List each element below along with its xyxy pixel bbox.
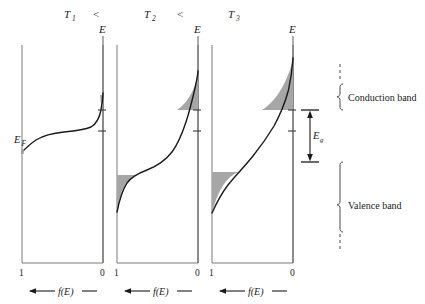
band-gap-label: E xyxy=(312,130,320,141)
conduction-band-annotation: Conduction band xyxy=(337,64,417,110)
panel-t3-valence-fill xyxy=(212,172,239,213)
panel-t1: E E F 1 0 f(E) xyxy=(13,23,106,298)
panel-t2-tick-one: 1 xyxy=(114,268,119,278)
panel-t3-box xyxy=(212,45,293,263)
band-gap-subscript: g xyxy=(320,136,324,144)
panel-t1-fe-axis: f(E) xyxy=(29,286,97,298)
panel-t2-box xyxy=(117,45,198,263)
valence-band-annotation: Valence band xyxy=(337,162,402,250)
panel-t3-conduction-fill xyxy=(262,58,293,110)
temperature-3-subscript: 3 xyxy=(235,14,240,23)
panel-t3-fd-curve xyxy=(212,58,293,213)
band-gap-arrowhead-down xyxy=(307,154,313,162)
panel-t1-energy-label: E xyxy=(98,23,106,35)
temperature-2-subscript: 2 xyxy=(152,14,156,23)
panel-t2-energy-label: E xyxy=(193,23,201,35)
temperature-1-label: T xyxy=(64,8,71,20)
panel-t3-fe-arrowhead xyxy=(219,288,226,293)
panel-t1-fe-arrowhead xyxy=(29,288,36,293)
fermi-dirac-figure: T 1 < T 2 < T 3 E E F xyxy=(0,0,425,304)
comparator-1: < xyxy=(93,8,99,20)
panel-t1-box xyxy=(22,45,103,263)
panel-t3-energy-label: E xyxy=(288,23,296,35)
valence-band-label: Valence band xyxy=(348,200,402,211)
temperature-1-subscript: 1 xyxy=(72,14,76,23)
temperature-header: T 1 < T 2 < T 3 xyxy=(64,8,240,23)
panel-t2-fd-curve xyxy=(117,71,198,212)
panel-t2: E 1 0 f(E) xyxy=(114,23,201,298)
temperature-3-label: T xyxy=(228,8,235,20)
temperature-2-label: T xyxy=(144,8,151,20)
panel-t2-fe-axis: f(E) xyxy=(124,286,192,298)
panel-t3-fe-label: f(E) xyxy=(248,286,264,298)
band-gap-arrowhead-up xyxy=(307,111,313,119)
band-gap-annotation: E g xyxy=(301,110,324,162)
conduction-band-label: Conduction band xyxy=(348,92,417,103)
fermi-level-label: E xyxy=(13,134,21,145)
panel-t1-fermi-marker xyxy=(21,149,24,154)
figure-canvas: T 1 < T 2 < T 3 E E F xyxy=(0,0,425,304)
panel-t1-tick-one: 1 xyxy=(19,268,24,278)
panel-t2-valence-fill xyxy=(117,175,136,212)
panel-t1-tick-zero: 0 xyxy=(100,268,105,278)
panel-t1-fe-label: f(E) xyxy=(58,286,74,298)
panel-t2-fe-arrowhead xyxy=(124,288,131,293)
fermi-level-subscript: F xyxy=(21,139,27,148)
comparator-2: < xyxy=(177,8,183,20)
panel-t1-fd-curve xyxy=(22,93,103,152)
panel-t2-fe-label: f(E) xyxy=(153,286,169,298)
panel-t3-fe-axis: f(E) xyxy=(219,286,287,298)
valence-band-brace xyxy=(337,162,343,232)
panel-t3-tick-zero: 0 xyxy=(290,268,295,278)
panel-t2-tick-zero: 0 xyxy=(195,268,200,278)
panel-t3: E 1 0 f(E) xyxy=(209,23,296,298)
panel-t3-tick-one: 1 xyxy=(209,268,214,278)
conduction-band-brace xyxy=(337,84,343,110)
